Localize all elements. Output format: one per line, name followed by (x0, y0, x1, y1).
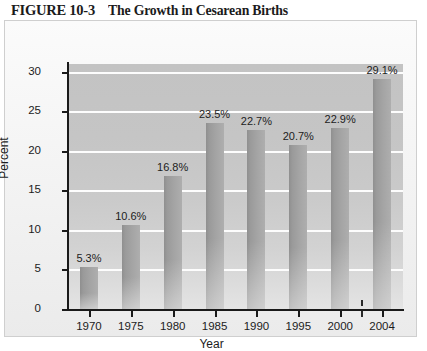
bar-value-label: 20.7% (268, 130, 328, 142)
bar (80, 267, 98, 309)
chart-panel: Percent Year 0510152025305.3%197010.6%19… (4, 20, 417, 337)
bar (206, 123, 224, 309)
x-axis-label: Year (5, 337, 418, 351)
bar-value-label: 10.6% (101, 210, 161, 222)
x-axis-tick (215, 311, 217, 317)
figure-title: FIGURE 10-3 The Growth in Cesarean Birth… (11, 1, 298, 19)
gridline (68, 230, 403, 232)
y-axis-tick (62, 151, 68, 153)
x-axis-tick (382, 311, 384, 317)
plot-frame (68, 64, 403, 309)
plot-area (68, 64, 403, 309)
bar (247, 130, 265, 309)
x-axis-tick (256, 311, 258, 317)
figure-number: FIGURE 10-3 (11, 1, 95, 19)
y-axis-line (67, 62, 69, 311)
x-axis-tick-label: 2004 (352, 320, 412, 332)
x-axis-line (67, 309, 404, 311)
y-axis-tick (62, 111, 68, 113)
y-axis-tick (62, 190, 68, 192)
gridline (68, 190, 403, 192)
figure-caption: The Growth in Cesarean Births (108, 2, 288, 19)
bar-value-label: 22.9% (310, 113, 370, 125)
bar-value-label: 16.8% (143, 161, 203, 173)
x-axis-break-marker (361, 300, 363, 317)
x-axis-tick (131, 311, 133, 317)
y-axis-label: Percent (0, 137, 11, 178)
y-axis-tick-label: 30 (28, 65, 41, 77)
y-axis-tick-label: 25 (28, 104, 41, 116)
bar (164, 176, 182, 309)
y-axis-tick-label: 5 (35, 262, 41, 274)
x-axis-tick (298, 311, 300, 317)
y-axis-tick-label: 10 (28, 223, 41, 235)
y-axis-tick (62, 230, 68, 232)
gridline (68, 151, 403, 153)
bar (373, 79, 391, 309)
bar (289, 145, 307, 309)
y-axis-tick (62, 72, 68, 74)
x-axis-tick (89, 311, 91, 317)
x-axis-tick (340, 311, 342, 317)
gridline (68, 269, 403, 271)
x-axis-tick (173, 311, 175, 317)
bar-value-label: 29.1% (352, 64, 412, 76)
y-axis-tick-label: 15 (28, 183, 41, 195)
y-axis-tick (62, 269, 68, 271)
bar-value-label: 22.7% (226, 115, 286, 127)
bar (122, 225, 140, 309)
y-axis-tick-label: 0 (35, 302, 41, 314)
y-axis-tick (62, 309, 68, 311)
bar (331, 128, 349, 309)
bar-value-label: 5.3% (59, 252, 119, 264)
y-axis-tick-label: 20 (28, 144, 41, 156)
